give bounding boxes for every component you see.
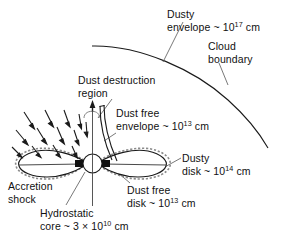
rotation-ellipse-icon	[84, 111, 99, 118]
label-dust-free-disk-pre: disk ~ 10	[127, 197, 170, 209]
infall-arrow	[45, 110, 54, 127]
infall-arrow	[12, 147, 22, 158]
label-hydrostatic-core-post: cm	[111, 220, 128, 232]
label-dust-free-envelope-pre: envelope ~ 10	[116, 120, 184, 132]
label-cloud-boundary: Cloud boundary	[208, 40, 253, 65]
label-dusty-envelope-pre: envelope ~ 10	[167, 21, 235, 33]
infall-arrow	[37, 128, 47, 144]
label-dust-free-envelope-post: cm	[192, 120, 209, 132]
leader-dust-free-envelope	[104, 133, 116, 141]
outflow-cavity-group	[100, 105, 118, 161]
label-dust-free-disk-line2: disk ~ 1013 cm	[127, 197, 196, 210]
label-dusty-disk-line2: disk ~ 1014 cm	[182, 165, 251, 178]
label-dust-destruction-line2: region	[78, 87, 155, 100]
label-dust-free-envelope-exponent: 13	[184, 119, 192, 128]
label-hydrostatic-core-exponent: 10	[103, 219, 111, 228]
infall-arrow	[57, 127, 64, 144]
label-hydrostatic-core-line2: core ~ 3 × 1010 cm	[40, 220, 129, 233]
dust-free-disk-block-left	[75, 160, 83, 167]
label-dust-destruction-region: Dust destruction region	[78, 74, 155, 99]
label-dusty-disk-line1: Dusty	[182, 152, 251, 165]
label-dust-free-disk-post: cm	[178, 197, 195, 209]
label-accretion-shock: Accretion shock	[8, 180, 53, 205]
label-accretion-shock-line2: shock	[8, 193, 53, 206]
label-dusty-envelope-line2: envelope ~ 1017 cm	[167, 21, 260, 34]
label-accretion-shock-line1: Accretion	[8, 180, 53, 193]
label-dusty-disk-exponent: 14	[225, 164, 233, 173]
label-dusty-envelope-post: cm	[243, 21, 260, 33]
infall-arrow	[78, 114, 82, 129]
infall-arrow	[16, 130, 28, 145]
infall-arrow	[74, 130, 79, 145]
infall-arrow	[64, 110, 70, 127]
rotation-axis-arrowhead	[90, 100, 96, 108]
label-dust-free-envelope-line2: envelope ~ 1013 cm	[116, 120, 209, 133]
label-dust-free-disk-exponent: 13	[170, 196, 178, 205]
label-dusty-disk-pre: disk ~ 10	[182, 165, 225, 177]
label-hydrostatic-core: Hydrostatic core ~ 3 × 1010 cm	[40, 207, 129, 232]
label-hydrostatic-core-pre: core ~ 3 × 10	[40, 220, 103, 232]
label-dust-destruction-line1: Dust destruction	[78, 74, 155, 87]
label-dusty-envelope-line1: Dusty	[167, 8, 260, 21]
leader-hydrostatic-core	[66, 172, 85, 205]
outflow-cavity-wall-inner	[100, 106, 112, 160]
label-cloud-boundary-line2: boundary	[208, 53, 253, 66]
label-dust-free-disk-line1: Dust free	[127, 184, 196, 197]
label-dusty-disk: Dusty disk ~ 1014 cm	[182, 152, 251, 177]
infall-arrow	[24, 112, 35, 129]
leader-cloud-boundary	[219, 63, 228, 85]
label-dusty-envelope: Dusty envelope ~ 1017 cm	[167, 8, 260, 33]
dust-free-disk-block-right	[102, 160, 110, 167]
label-dust-free-envelope-line1: Dust free	[116, 107, 209, 120]
protostar-diagram: Dusty envelope ~ 1017 cm Cloud boundary …	[0, 0, 285, 249]
label-dust-free-disk: Dust free disk ~ 1013 cm	[127, 184, 196, 209]
label-cloud-boundary-line1: Cloud	[208, 40, 253, 53]
label-hydrostatic-core-line1: Hydrostatic	[40, 207, 129, 220]
label-dusty-envelope-exponent: 17	[235, 20, 243, 29]
infall-arrow	[84, 122, 88, 137]
label-dusty-disk-post: cm	[233, 165, 250, 177]
label-dust-free-envelope: Dust free envelope ~ 1013 cm	[116, 107, 209, 132]
rotation-axis-group	[84, 100, 99, 206]
